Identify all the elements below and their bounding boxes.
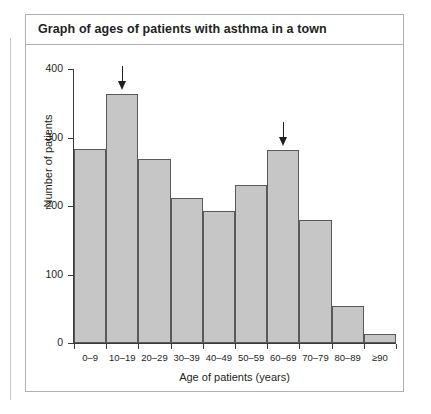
x-tick [299, 344, 300, 349]
x-tick [74, 344, 75, 349]
x-tick [171, 344, 172, 349]
x-tick [267, 344, 268, 349]
bar-1019 [106, 94, 138, 343]
x-tick-label: ≥90 [358, 352, 402, 363]
bar-09 [74, 149, 106, 343]
chart-panel: Graph of ages of patients with asthma in… [25, 14, 404, 392]
bar-8089 [332, 306, 364, 343]
bar-2029 [138, 159, 170, 343]
bar-6069 [267, 150, 299, 343]
x-tick [106, 344, 107, 349]
bar-90 [364, 334, 396, 343]
x-tick [364, 344, 365, 349]
page-left-rule [10, 38, 11, 400]
y-tick [68, 138, 73, 139]
bar-3039 [171, 198, 203, 343]
y-tick-label: 200 [29, 199, 63, 211]
y-tick-label: 300 [29, 131, 63, 143]
bar-4049 [203, 211, 235, 343]
bar-series [74, 69, 396, 343]
bar-7079 [299, 220, 331, 343]
x-tick [138, 344, 139, 349]
x-tick [396, 344, 397, 349]
y-tick [68, 343, 73, 344]
x-tick [235, 344, 236, 349]
y-tick [68, 275, 73, 276]
y-tick [68, 206, 73, 207]
x-tick [203, 344, 204, 349]
figure-root: Graph of ages of patients with asthma in… [0, 0, 431, 414]
x-axis-title: Age of patients (years) [73, 371, 396, 383]
x-tick [332, 344, 333, 349]
y-tick-label: 400 [29, 62, 63, 74]
y-tick [68, 69, 73, 70]
y-tick-label: 0 [29, 336, 63, 348]
y-tick-label: 100 [29, 268, 63, 280]
bar-5059 [235, 185, 267, 343]
plot-area: Number of patients Age of patients (year… [26, 15, 405, 363]
